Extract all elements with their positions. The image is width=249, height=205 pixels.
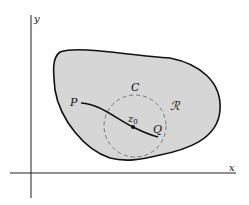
label-q: Q <box>153 123 162 136</box>
complex-plane-diagram: y x P Q C ℛ z0 <box>0 0 249 205</box>
label-region-r: ℛ <box>170 99 181 113</box>
y-axis-label: y <box>33 13 40 24</box>
label-c: C <box>131 81 140 94</box>
label-z0-subscript: 0 <box>133 118 137 126</box>
region-r <box>54 50 221 160</box>
x-axis-label: x <box>229 162 235 173</box>
label-p: P <box>69 96 78 109</box>
